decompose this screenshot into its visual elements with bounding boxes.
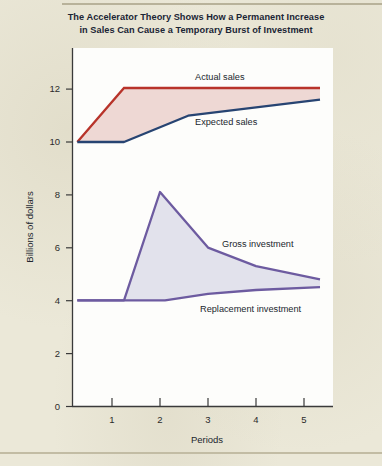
y-tick-label-2: 2 [55, 348, 60, 359]
y-axis-label: Billions of dollars [24, 191, 35, 263]
y-tick-label-4: 4 [55, 295, 60, 306]
series-label-gross-investment: Gross investment [222, 239, 294, 249]
series-label-replacement-investment: Replacement investment [200, 304, 302, 314]
x-tick-label-2: 2 [157, 414, 162, 425]
x-axis-label: Periods [191, 434, 223, 445]
y-tick-label-8: 8 [55, 189, 60, 200]
x-tick-label-4: 4 [253, 414, 258, 425]
x-tick-label-5: 5 [301, 414, 306, 425]
series-label-actual-sales: Actual sales [195, 72, 245, 82]
x-tick-label-1: 1 [109, 414, 114, 425]
x-tick-label-3: 3 [205, 414, 210, 425]
figure-container: The Accelerator Theory Shows How a Perma… [0, 0, 382, 466]
series-label-expected-sales: Expected sales [195, 117, 258, 127]
y-axis-ticks [66, 89, 72, 406]
y-tick-label-0: 0 [55, 401, 60, 412]
chart-plot: 0 2 4 6 8 10 12 1 2 3 4 5 Periods Billio… [0, 0, 382, 466]
y-tick-label-6: 6 [55, 242, 60, 253]
y-tick-label-10: 10 [49, 136, 60, 147]
y-tick-label-12: 12 [49, 83, 60, 94]
